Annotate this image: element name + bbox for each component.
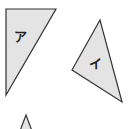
triangle-a-label: ア — [14, 29, 27, 44]
triangle-partial — [20, 115, 32, 129]
triangle-i-label: イ — [89, 56, 102, 71]
diagram-canvas: ア イ — [0, 0, 134, 129]
triangle-a — [6, 9, 56, 95]
